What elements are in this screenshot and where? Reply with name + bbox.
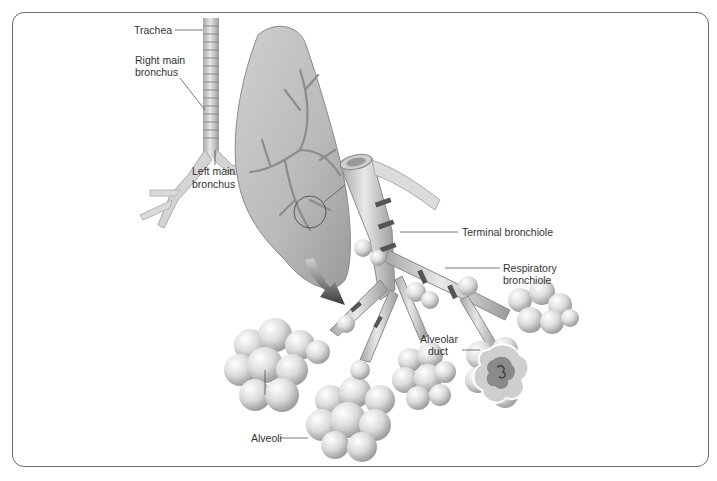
label-respiratory-bronchiole-line2: bronchiole xyxy=(503,274,551,287)
lung-illustration xyxy=(235,26,350,288)
label-left-main-bronchus-line1: Left main xyxy=(192,165,235,178)
label-trachea: Trachea xyxy=(134,24,172,37)
label-terminal-bronchiole: Terminal bronchiole xyxy=(462,226,553,239)
trachea-illustration xyxy=(140,18,250,228)
respiratory-illustration xyxy=(0,0,717,481)
label-alveolar-duct-line2: duct xyxy=(428,345,448,358)
label-right-main-bronchus-line2: bronchus xyxy=(135,66,178,79)
label-alveoli: Alveoli xyxy=(251,432,282,445)
bronchiole-tree xyxy=(330,152,510,362)
label-left-main-bronchus-line2: bronchus xyxy=(192,178,235,191)
